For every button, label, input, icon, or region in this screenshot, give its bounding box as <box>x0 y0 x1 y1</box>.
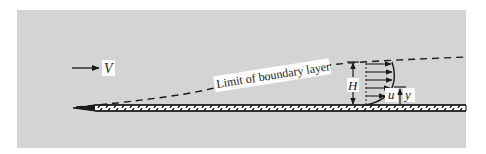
boundary-layer-label: Limit of boundary layer <box>215 59 331 91</box>
height-coordinate-label: y <box>403 87 411 102</box>
thickness-label: H <box>347 78 358 93</box>
boundary-layer-diagram: V Limit of boundary layer H u y <box>0 0 486 154</box>
freestream-velocity-label: V <box>104 61 114 76</box>
flat-plate <box>73 105 466 111</box>
local-velocity-label: u <box>388 87 395 102</box>
